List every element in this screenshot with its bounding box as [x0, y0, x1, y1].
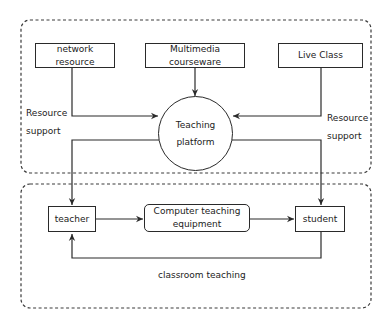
top-group-outline — [21, 21, 182, 22]
live-class-box: Live Class — [278, 43, 363, 68]
multimedia-courseware-label: Multimedia courseware — [146, 43, 244, 69]
classroom-teaching-label: classroom teaching — [158, 270, 246, 281]
student-box: student — [295, 206, 345, 232]
network-resource-label: network resource — [36, 43, 114, 69]
teaching-platform-line1: Teaching — [176, 117, 216, 134]
left-resource-support-line2: support — [26, 126, 61, 137]
student-label: student — [303, 213, 337, 226]
computer-teaching-equipment-box: Computer teaching equipment — [144, 204, 250, 232]
left-resource-support-line1: Resource — [26, 108, 67, 119]
equipment-line2: equipment — [173, 218, 222, 231]
equipment-line1: Computer teaching — [154, 205, 241, 218]
teaching-platform-node: Teaching platform — [158, 96, 233, 171]
teacher-label: teacher — [55, 213, 89, 226]
right-resource-support-line1: Resource — [327, 113, 368, 124]
network-resource-box: network resource — [35, 43, 115, 68]
teacher-box: teacher — [48, 206, 96, 232]
teaching-platform-line2: platform — [176, 134, 214, 151]
live-class-label: Live Class — [298, 49, 343, 62]
multimedia-courseware-box: Multimedia courseware — [145, 43, 245, 68]
right-resource-support-line2: support — [327, 131, 362, 142]
